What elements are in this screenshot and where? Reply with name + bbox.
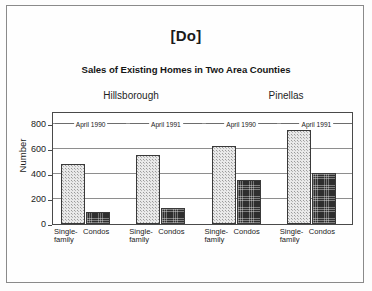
- bar-single-family-1: [136, 155, 160, 224]
- annotation-period-1: April 1991: [149, 121, 183, 128]
- x-axis-label-3: Condos: [158, 228, 184, 236]
- bar-condos-3: [312, 173, 336, 224]
- x-axis-label-1: Condos: [83, 228, 109, 236]
- y-tick-label-800: 800: [22, 119, 46, 129]
- y-tick-label-200: 200: [22, 194, 46, 204]
- annotation-period-2: April 1990: [224, 121, 258, 128]
- x-axis-label-0: Single-family: [54, 228, 78, 245]
- bar-condos-2: [237, 180, 261, 224]
- bar-single-family-3: [287, 130, 311, 224]
- bar-condos-0: [86, 212, 110, 224]
- x-axis-label-6: Single-family: [280, 228, 304, 245]
- x-axis-label-2: Single-family: [129, 228, 153, 245]
- chart-subtitle: Sales of Existing Homes in Two Area Coun…: [0, 64, 372, 75]
- x-axis-label-4: Single-family: [205, 228, 229, 245]
- page-background: [Do] Sales of Existing Homes in Two Area…: [0, 0, 372, 291]
- bar-single-family-2: [212, 146, 236, 224]
- x-axis-label-7: Condos: [309, 228, 335, 236]
- page-title: [Do]: [0, 27, 372, 44]
- y-tick-label-400: 400: [22, 169, 46, 179]
- x-axis-label-5: Condos: [234, 228, 260, 236]
- group-header-pinellas: Pinellas: [216, 90, 356, 101]
- y-tick-mark-0: [48, 225, 52, 226]
- annotation-period-0: April 1990: [74, 121, 108, 128]
- bar-single-family-0: [61, 164, 85, 224]
- bar-condos-1: [161, 208, 185, 224]
- y-tick-label-0: 0: [22, 219, 46, 229]
- annotation-period-3: April 1991: [300, 121, 334, 128]
- chart-plot-area: April 1990April 1991April 1990April 1991: [52, 112, 353, 225]
- y-tick-label-600: 600: [22, 144, 46, 154]
- group-header-hillsborough: Hillsborough: [56, 90, 206, 101]
